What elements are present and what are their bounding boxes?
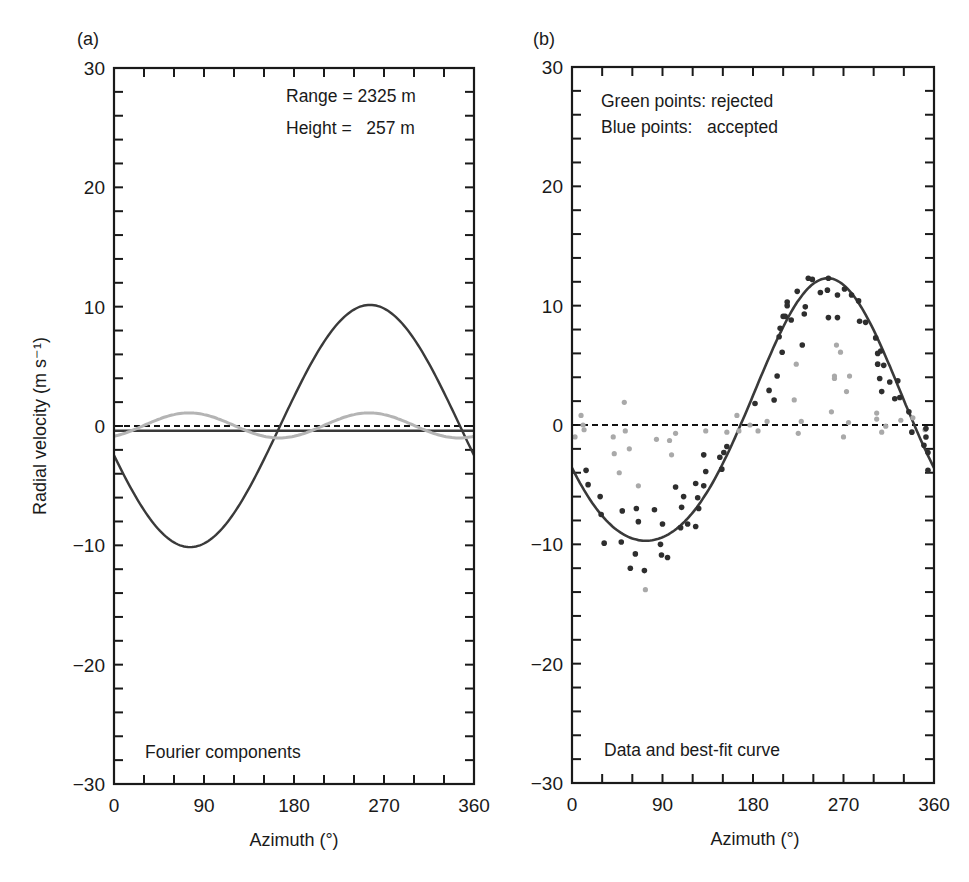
- rejected-point: [654, 437, 659, 442]
- accepted-point: [633, 551, 639, 557]
- accepted-point: [665, 555, 671, 561]
- rejected-point: [874, 410, 879, 415]
- accepted-point: [784, 303, 790, 309]
- accepted-point: [873, 335, 879, 341]
- x-tick-label: 0: [109, 795, 120, 816]
- rejected-point: [578, 413, 583, 418]
- accepted-point: [619, 508, 625, 514]
- rejected-point: [736, 428, 741, 433]
- accepted-point: [724, 444, 730, 450]
- y-tick-label: −30: [531, 773, 563, 794]
- accepted-point: [895, 378, 901, 384]
- y-tick-label: −30: [73, 774, 105, 795]
- accepted-point: [923, 426, 929, 432]
- y-tick-label: 10: [542, 296, 563, 317]
- rejected-point: [755, 428, 760, 433]
- panel-a-label: (a): [77, 29, 99, 49]
- accepted-point: [799, 342, 805, 348]
- accepted-point: [771, 397, 777, 403]
- accepted-point: [598, 512, 604, 518]
- panel-b-title: Data and best-fit curve: [604, 740, 780, 760]
- rejected-point: [627, 446, 632, 451]
- accepted-point: [835, 315, 841, 321]
- y-tick-label: 20: [542, 176, 563, 197]
- accepted-point: [766, 388, 772, 394]
- rejected-point: [847, 373, 852, 378]
- accepted-point: [679, 505, 685, 511]
- x-tick-label: 90: [193, 795, 214, 816]
- rejected-point: [581, 427, 586, 432]
- accepted-point: [782, 314, 788, 320]
- rejected-point: [846, 420, 851, 425]
- rejected-point: [612, 451, 617, 456]
- rejected-point: [844, 389, 849, 394]
- accepted-point: [906, 409, 912, 415]
- panel-a-title: Fourier components: [145, 742, 301, 762]
- rejected-point: [580, 422, 585, 427]
- accepted-point: [921, 442, 927, 448]
- accepted-point: [660, 521, 666, 527]
- panel-b-data-and-fit: (b) 090180270360−30−20−100102030 Green p…: [531, 29, 950, 849]
- rejected-point: [832, 376, 837, 381]
- rejected-point: [623, 428, 628, 433]
- accepted-point: [777, 326, 783, 332]
- accepted-point: [583, 468, 589, 474]
- rejected-point: [838, 350, 843, 355]
- accepted-point: [652, 507, 658, 513]
- accepted-point: [925, 468, 931, 474]
- accepted-point: [810, 277, 816, 283]
- accepted-point: [897, 395, 903, 401]
- rejected-point: [910, 415, 915, 420]
- panel-b-annotation-accepted: Blue points: accepted: [601, 117, 778, 137]
- accepted-point: [673, 484, 679, 490]
- y-axis-title: Radial velocity (m s⁻¹): [30, 337, 50, 515]
- x-tick-label: 270: [828, 794, 860, 815]
- rejected-point: [834, 342, 839, 347]
- accepted-point: [701, 483, 707, 489]
- panel-b-points: [572, 275, 930, 592]
- accepted-point: [818, 290, 824, 296]
- rejected-point: [879, 430, 884, 435]
- y-tick-label: 0: [552, 415, 563, 436]
- panel-b-annotation-rejected: Green points: rejected: [601, 91, 773, 111]
- accepted-point: [835, 292, 841, 298]
- y-tick-label: 0: [94, 416, 105, 437]
- panel-a-curves: [114, 305, 474, 547]
- rejected-point: [643, 587, 648, 592]
- best-fit-curve: [572, 278, 934, 541]
- y-tick-label: 10: [84, 297, 105, 318]
- rejected-point: [617, 470, 622, 475]
- chart-canvas: Radial velocity (m s⁻¹) (a) 090180270360…: [0, 0, 969, 882]
- y-tick-label: −20: [531, 654, 563, 675]
- accepted-point: [681, 494, 687, 500]
- rejected-point: [799, 419, 804, 424]
- rejected-point: [611, 434, 616, 439]
- accepted-point: [703, 469, 709, 475]
- y-tick-label: 30: [542, 57, 563, 78]
- accepted-point: [909, 429, 915, 435]
- accepted-point: [585, 482, 591, 488]
- panel-a-fourier-components: (a) 090180270360−30−20−100102030 Range =…: [73, 29, 490, 850]
- rejected-point: [724, 430, 729, 435]
- accepted-point: [634, 506, 640, 512]
- accepted-point: [597, 494, 603, 500]
- panel-b-tick-labels: 090180270360−30−20−100102030: [531, 57, 950, 815]
- panel-a-annotation-range: Range = 2325 m: [286, 86, 416, 106]
- accepted-point: [825, 287, 831, 293]
- y-tick-label: −10: [531, 534, 563, 555]
- accepted-point: [925, 450, 931, 456]
- accepted-point: [863, 320, 869, 326]
- rejected-point: [734, 413, 739, 418]
- panel-b-label: (b): [533, 29, 555, 49]
- y-tick-label: −20: [73, 655, 105, 676]
- accepted-point: [628, 565, 634, 571]
- rejected-point: [841, 434, 846, 439]
- accepted-point: [659, 552, 665, 558]
- accepted-point: [802, 304, 808, 310]
- panel-a-x-axis-title: Azimuth (°): [249, 830, 338, 850]
- accepted-point: [779, 349, 785, 355]
- rejected-point: [794, 362, 799, 367]
- x-tick-label: 180: [278, 795, 310, 816]
- accepted-point: [693, 524, 699, 530]
- rejected-point: [669, 452, 674, 457]
